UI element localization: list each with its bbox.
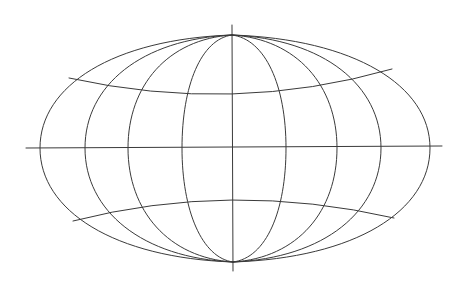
- meridian-line: [232, 35, 430, 262]
- equator: [26, 146, 442, 148]
- meridian-line: [232, 35, 381, 262]
- meridians: [40, 35, 430, 262]
- meridian-line: [232, 35, 337, 262]
- central-meridian: [232, 25, 233, 271]
- south-parallel: [73, 200, 394, 221]
- meridian-line: [232, 35, 286, 262]
- graticule-svg: [0, 0, 468, 281]
- north-parallel: [69, 69, 392, 94]
- meridian-line: [182, 35, 233, 262]
- meridian-line: [85, 35, 233, 262]
- meridian-line: [128, 35, 233, 262]
- parallels: [69, 69, 394, 221]
- meridian-line: [40, 35, 233, 262]
- graticule-diagram: [0, 0, 468, 281]
